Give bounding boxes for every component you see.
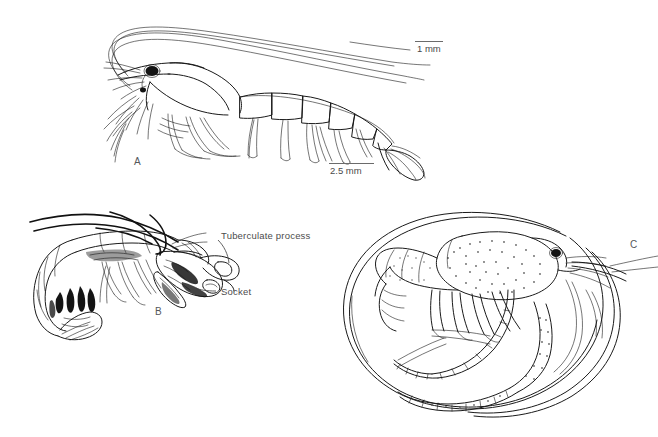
scale-label-1mm: 1 mm — [417, 43, 441, 54]
panel-b-drawing — [30, 212, 239, 340]
annotation-socket: Socket — [221, 286, 251, 297]
scale-rule-1mm — [415, 41, 443, 42]
plate-artwork — [0, 0, 658, 437]
panel-a-drawing — [104, 27, 430, 180]
panel-letter-b: B — [155, 306, 162, 317]
scale-rule-2p5mm — [329, 163, 374, 164]
panel-letter-a: A — [134, 156, 141, 167]
figure-plate: A B C Tuberculate process Socket 1 mm 2.… — [0, 0, 658, 437]
panel-letter-c: C — [630, 239, 637, 250]
scale-label-2p5mm: 2.5 mm — [330, 165, 362, 176]
panel-c-drawing — [343, 212, 658, 417]
annotation-tuberculate-process: Tuberculate process — [221, 230, 311, 241]
